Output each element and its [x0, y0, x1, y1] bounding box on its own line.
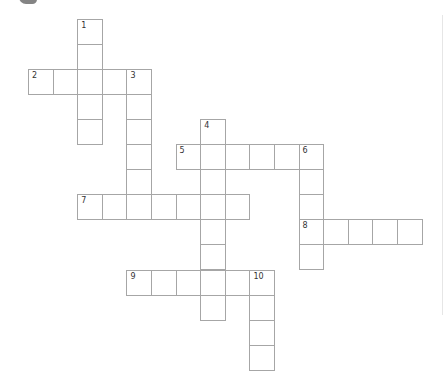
letter-input[interactable] [201, 271, 225, 295]
crossword-board: 12345687910 [0, 0, 443, 387]
letter-input[interactable] [201, 195, 225, 219]
letter-input[interactable] [300, 145, 324, 169]
crossword-cell[interactable] [200, 244, 226, 270]
letter-input[interactable] [127, 195, 151, 219]
crossword-cell[interactable] [77, 44, 103, 70]
letter-input[interactable] [78, 45, 102, 69]
letter-input[interactable] [250, 296, 274, 320]
crossword-cell[interactable]: 2 [28, 69, 54, 95]
letter-input[interactable] [152, 271, 176, 295]
letter-input[interactable] [300, 245, 324, 269]
letter-input[interactable] [250, 346, 274, 370]
letter-input[interactable] [250, 271, 274, 295]
crossword-cell[interactable] [249, 144, 275, 170]
letter-input[interactable] [300, 220, 324, 244]
crossword-cell[interactable] [200, 194, 226, 220]
crossword-cell[interactable] [151, 270, 177, 296]
letter-input[interactable] [177, 195, 201, 219]
letter-input[interactable] [226, 271, 250, 295]
crossword-cell[interactable] [397, 219, 423, 245]
crossword-cell[interactable] [126, 169, 152, 195]
crossword-cell[interactable] [372, 219, 398, 245]
crossword-cell[interactable] [225, 194, 251, 220]
letter-input[interactable] [201, 170, 225, 194]
letter-input[interactable] [127, 271, 151, 295]
letter-input[interactable] [324, 220, 348, 244]
letter-input[interactable] [226, 145, 250, 169]
crossword-cell[interactable] [225, 270, 251, 296]
crossword-cell[interactable] [200, 295, 226, 321]
crossword-cell[interactable] [299, 194, 325, 220]
crossword-cell[interactable] [348, 219, 374, 245]
letter-input[interactable] [201, 245, 225, 269]
crossword-cell[interactable] [200, 169, 226, 195]
crossword-cell[interactable] [126, 144, 152, 170]
letter-input[interactable] [226, 195, 250, 219]
crossword-cell[interactable]: 8 [299, 219, 325, 245]
letter-input[interactable] [201, 120, 225, 144]
crossword-cell[interactable] [249, 295, 275, 321]
crossword-cell[interactable] [176, 270, 202, 296]
letter-input[interactable] [275, 145, 299, 169]
letter-input[interactable] [373, 220, 397, 244]
letter-input[interactable] [300, 170, 324, 194]
letter-input[interactable] [127, 95, 151, 119]
letter-input[interactable] [78, 120, 102, 144]
crossword-cell[interactable]: 9 [126, 270, 152, 296]
crossword-cell[interactable] [249, 320, 275, 346]
letter-input[interactable] [177, 271, 201, 295]
letter-input[interactable] [201, 296, 225, 320]
crossword-cell[interactable] [53, 69, 79, 95]
crossword-cell[interactable]: 10 [249, 270, 275, 296]
crossword-cell[interactable] [126, 94, 152, 120]
letter-input[interactable] [29, 70, 53, 94]
letter-input[interactable] [398, 220, 422, 244]
crossword-cell[interactable] [126, 119, 152, 145]
letter-input[interactable] [201, 145, 225, 169]
crossword-cell[interactable] [299, 244, 325, 270]
crossword-cell[interactable] [323, 219, 349, 245]
letter-input[interactable] [349, 220, 373, 244]
crossword-cell[interactable] [274, 144, 300, 170]
crossword-cell[interactable] [126, 194, 152, 220]
letter-input[interactable] [250, 145, 274, 169]
crossword-cell[interactable] [200, 270, 226, 296]
crossword-cell[interactable]: 1 [77, 19, 103, 45]
crossword-cell[interactable] [225, 144, 251, 170]
letter-input[interactable] [103, 195, 127, 219]
crossword-cell[interactable] [299, 169, 325, 195]
letter-input[interactable] [78, 20, 102, 44]
crossword-cell[interactable] [102, 69, 128, 95]
letter-input[interactable] [250, 321, 274, 345]
letter-input[interactable] [78, 70, 102, 94]
letter-input[interactable] [78, 195, 102, 219]
crossword-cell[interactable]: 4 [200, 119, 226, 145]
letter-input[interactable] [103, 70, 127, 94]
letter-input[interactable] [152, 195, 176, 219]
letter-input[interactable] [78, 95, 102, 119]
crossword-cell[interactable]: 3 [126, 69, 152, 95]
crossword-cell[interactable] [200, 219, 226, 245]
letter-input[interactable] [127, 170, 151, 194]
letter-input[interactable] [127, 120, 151, 144]
letter-input[interactable] [54, 70, 78, 94]
letter-input[interactable] [177, 145, 201, 169]
letter-input[interactable] [201, 220, 225, 244]
letter-input[interactable] [127, 70, 151, 94]
crossword-cell[interactable] [77, 94, 103, 120]
crossword-cell[interactable] [200, 144, 226, 170]
header-fragment [19, 0, 37, 4]
letter-input[interactable] [300, 195, 324, 219]
crossword-cell[interactable] [77, 119, 103, 145]
crossword-cell[interactable] [176, 194, 202, 220]
crossword-cell[interactable] [151, 194, 177, 220]
crossword-cell[interactable]: 7 [77, 194, 103, 220]
crossword-cell[interactable] [249, 345, 275, 371]
crossword-cell[interactable]: 5 [176, 144, 202, 170]
crossword-cell[interactable] [77, 69, 103, 95]
letter-input[interactable] [127, 145, 151, 169]
crossword-cell[interactable] [102, 194, 128, 220]
crossword-cell[interactable]: 6 [299, 144, 325, 170]
